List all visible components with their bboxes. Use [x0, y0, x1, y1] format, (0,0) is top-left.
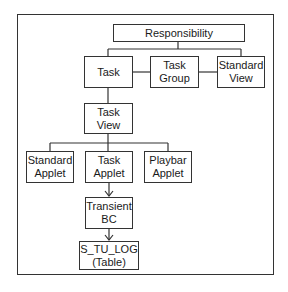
node-transient-bc: Transient BC: [85, 197, 133, 229]
connector-lines: [0, 0, 288, 292]
node-standard-view: Standard View: [217, 56, 265, 88]
node-responsibility: Responsibility: [113, 24, 245, 42]
node-standard-applet: Standard Applet: [26, 151, 74, 183]
node-task-applet: Task Applet: [85, 151, 133, 183]
node-playbar-applet: Playbar Applet: [144, 151, 192, 183]
node-s-tu-log-table: S_TU_LOG (Table): [79, 241, 139, 270]
node-task-view: Task View: [84, 103, 133, 134]
node-task: Task: [84, 56, 133, 88]
node-task-group: Task Group: [150, 56, 199, 88]
